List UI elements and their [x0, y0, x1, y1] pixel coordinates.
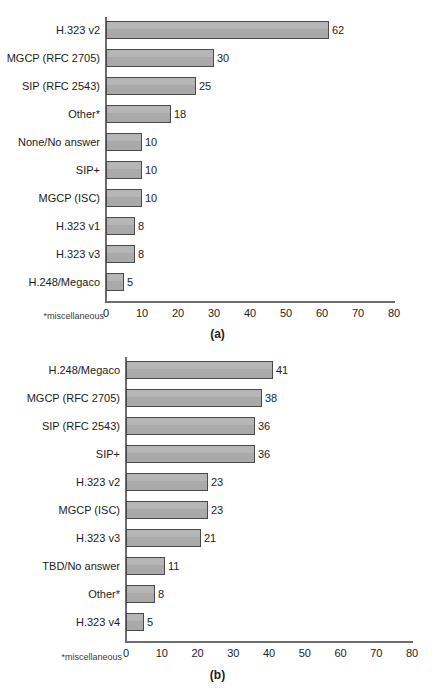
figure-a: H.323 v262MGCP (RFC 2705)30SIP (RFC 2543…	[0, 0, 435, 348]
x-tick: 0	[123, 645, 129, 661]
category-label: Other*	[88, 585, 120, 603]
footnote-b: *miscellaneous	[30, 652, 122, 662]
bar	[106, 189, 142, 207]
bar-sheen	[127, 614, 143, 621]
category-label: SIP+	[96, 445, 120, 463]
bar-value-label: 36	[258, 445, 270, 463]
plot-area-a: H.323 v262MGCP (RFC 2705)30SIP (RFC 2543…	[106, 17, 394, 297]
bar-value-label: 8	[158, 585, 164, 603]
bar-row: MGCP (ISC)23	[126, 497, 412, 525]
x-axis-b	[125, 641, 413, 643]
x-tick: 50	[280, 305, 292, 321]
bar	[106, 49, 214, 67]
footnote-a: *miscellaneous	[20, 311, 104, 321]
category-label: H.323 v4	[76, 613, 120, 631]
bar	[126, 361, 273, 379]
plot-area-b: H.248/Megaco41MGCP (RFC 2705)38SIP (RFC …	[126, 357, 412, 637]
x-tick: 50	[299, 645, 311, 661]
category-label: TBD/No answer	[42, 557, 120, 575]
bar-sheen	[127, 586, 154, 593]
bar-sheen	[107, 22, 328, 29]
bar-row: H.323 v18	[106, 213, 394, 241]
bar-row: SIP (RFC 2543)25	[106, 73, 394, 101]
bar-row: H.248/Megaco5	[106, 269, 394, 297]
bar-value-label: 21	[204, 529, 216, 547]
category-label: H.248/Megaco	[28, 273, 100, 291]
category-label: H.323 v3	[56, 245, 100, 263]
bar-value-label: 36	[258, 417, 270, 435]
bar-value-label: 5	[147, 613, 153, 631]
category-label: None/No answer	[18, 133, 100, 151]
bar-value-label: 5	[127, 273, 133, 291]
bar-value-label: 10	[145, 161, 157, 179]
figure-b: H.248/Megaco41MGCP (RFC 2705)38SIP (RFC …	[0, 340, 435, 688]
bar-row: SIP+10	[106, 157, 394, 185]
bar	[106, 217, 135, 235]
bar-value-label: 18	[174, 105, 186, 123]
bar-rows-b: H.248/Megaco41MGCP (RFC 2705)38SIP (RFC …	[126, 357, 412, 637]
x-tick: 20	[191, 645, 203, 661]
bar-value-label: 23	[211, 473, 223, 491]
bar	[126, 417, 255, 435]
bar	[126, 529, 201, 547]
bar-row: MGCP (ISC)10	[106, 185, 394, 213]
bar-value-label: 41	[276, 361, 288, 379]
category-label: H.248/Megaco	[48, 361, 120, 379]
bar	[126, 557, 165, 575]
bar-value-label: 10	[145, 189, 157, 207]
x-tick: 10	[156, 645, 168, 661]
bar-row: H.323 v38	[106, 241, 394, 269]
bar	[126, 585, 155, 603]
x-axis-a	[105, 301, 395, 303]
bar-row: H.323 v223	[126, 469, 412, 497]
bar-value-label: 62	[332, 21, 344, 39]
bar-sheen	[127, 418, 254, 425]
x-tick: 70	[352, 305, 364, 321]
bar	[126, 473, 208, 491]
x-tick: 30	[227, 645, 239, 661]
bar-row: MGCP (RFC 2705)38	[126, 385, 412, 413]
bar-sheen	[107, 134, 141, 141]
bar	[106, 77, 196, 95]
bar	[106, 105, 171, 123]
bar	[106, 245, 135, 263]
bar-row: Other*18	[106, 101, 394, 129]
bar-sheen	[127, 362, 272, 369]
bar-value-label: 38	[265, 389, 277, 407]
bar-row: H.323 v262	[106, 17, 394, 45]
bar-sheen	[107, 218, 134, 225]
category-label: MGCP (RFC 2705)	[27, 389, 120, 407]
x-tick: 80	[406, 645, 418, 661]
bar-value-label: 11	[168, 557, 179, 575]
x-tick: 60	[334, 645, 346, 661]
x-tick: 70	[370, 645, 382, 661]
bar-sheen	[107, 190, 141, 197]
x-tick: 80	[388, 305, 400, 321]
bar-value-label: 8	[138, 245, 144, 263]
bar-row: H.323 v321	[126, 525, 412, 553]
bar-row: MGCP (RFC 2705)30	[106, 45, 394, 73]
bar	[126, 389, 262, 407]
bar	[126, 613, 144, 631]
bar-row: None/No answer10	[106, 129, 394, 157]
bar-row: Other*8	[126, 581, 412, 609]
category-label: SIP (RFC 2543)	[42, 417, 120, 435]
x-tick: 60	[316, 305, 328, 321]
bar-sheen	[107, 106, 170, 113]
bar-sheen	[107, 246, 134, 253]
bar-sheen	[107, 274, 123, 281]
category-label: MGCP (RFC 2705)	[7, 49, 100, 67]
bar	[126, 501, 208, 519]
bar-value-label: 8	[138, 217, 144, 235]
bar	[106, 273, 124, 291]
x-tick: 20	[172, 305, 184, 321]
category-label: H.323 v2	[56, 21, 100, 39]
bar-value-label: 30	[217, 49, 229, 67]
bar	[106, 133, 142, 151]
bar-sheen	[107, 162, 141, 169]
caption-a: (a)	[0, 327, 435, 341]
bar	[106, 161, 142, 179]
bar-sheen	[107, 50, 213, 57]
bar-row: TBD/No answer11	[126, 553, 412, 581]
category-label: SIP+	[76, 161, 100, 179]
